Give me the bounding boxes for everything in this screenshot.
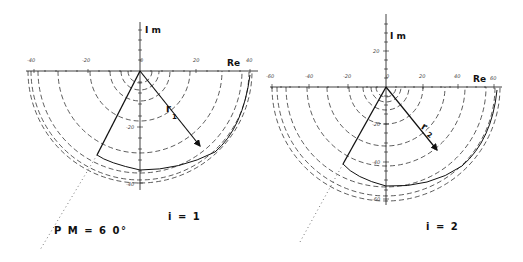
- plot-1-re-tick-label: 20: [193, 57, 199, 63]
- plot-2-re-tick-label: 0: [386, 73, 389, 79]
- plot-2-re-tick-label: -40: [305, 73, 313, 79]
- plot-2-im-tick-label: -60: [372, 196, 380, 202]
- plot-1-re-tick-label: -20: [82, 57, 90, 63]
- plot-2-dotted-extension: [300, 164, 343, 242]
- plot-1-im-tick-label: -40: [126, 181, 134, 187]
- plot-1-case-label: i = 1: [168, 211, 201, 222]
- plot-1-im-label: I m: [145, 25, 161, 35]
- plot-2-re-tick-label: -60: [266, 73, 274, 79]
- pm-annotation: P M = 6 0°: [54, 225, 128, 236]
- plot-1-r1-label: r: [166, 103, 171, 114]
- plot-2-re-tick-label: 20: [419, 73, 425, 79]
- plot-1-r1-subscript: 1: [172, 113, 177, 121]
- plot-2-re-minor-ticks: [272, 84, 494, 89]
- plot-2-r2-label: r: [419, 120, 429, 132]
- plot-1-re-tick-label: 0: [140, 57, 143, 63]
- plot-1-re-tick-label: -40: [27, 57, 35, 63]
- plot-2-re-tick-label: 40: [454, 73, 460, 79]
- plot-2-im-tick-label: -20: [372, 121, 380, 127]
- plot-2-r2-subscript: 2: [425, 131, 433, 140]
- plot-2-response-curve: [343, 90, 497, 186]
- plot-2-re-tick-label: -20: [343, 73, 351, 79]
- plot-2-case-label: i = 2: [426, 221, 459, 232]
- plot-2-im-label: I m: [390, 31, 406, 41]
- plot-2-re-tick-label: 60: [490, 75, 496, 81]
- plot-1-re-label: Re: [227, 58, 240, 68]
- plot-2-im-tick-label: 20: [373, 48, 379, 54]
- plot-1-re-tick-label: 40: [246, 57, 252, 63]
- plot-1-response-curve: [97, 75, 250, 170]
- plot-2-re-label: Re: [473, 74, 486, 84]
- plot-2-im-tick-label: -40: [372, 159, 380, 165]
- plot-2: -60 -40 -20 0 20 40 60 20 -20 -40 -60 I …: [266, 14, 502, 242]
- diagram-canvas: -40 -20 0 20 40 -20 -40 I m Re r 1 i = 1…: [0, 0, 523, 262]
- plot-1-pm-line: [97, 71, 140, 155]
- plot-1-im-tick-label: -20: [126, 124, 134, 130]
- plot-2-r2-arrow: [386, 87, 437, 150]
- plot-1: -40 -20 0 20 40 -20 -40 I m Re r 1 i = 1…: [26, 22, 258, 250]
